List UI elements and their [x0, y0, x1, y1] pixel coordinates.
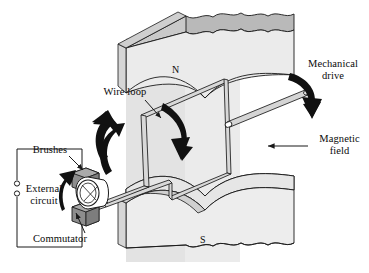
- commutator-label: Commutator: [26, 233, 94, 245]
- generator-diagram: Wire loop Mechanical drive Magnetic fiel…: [0, 0, 369, 273]
- brushes-label: Brushes: [26, 144, 74, 156]
- south-pole-label: S: [200, 234, 206, 245]
- terminal-top: [14, 181, 19, 186]
- north-pole-label: N: [172, 64, 179, 75]
- external-circuit-label: External circuit: [20, 183, 68, 206]
- mechanical-drive-label: Mechanical drive: [300, 58, 366, 81]
- terminal-bottom: [14, 191, 19, 196]
- brushes-leader-arrow: [69, 156, 83, 170]
- split-ring-commutator: [76, 177, 109, 209]
- rotation-arrow-up: [92, 110, 125, 175]
- wire-loop-label: Wire loop: [92, 86, 158, 98]
- magnetic-field-label: Magnetic field: [312, 133, 367, 156]
